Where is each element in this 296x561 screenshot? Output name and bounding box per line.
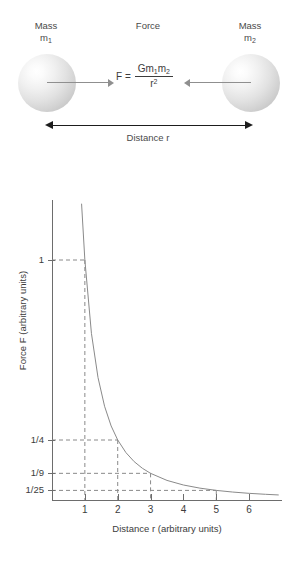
inverse-square-chart: Force F (arbitrary units) Distance r (ar… <box>0 165 296 561</box>
mass1-sphere <box>18 54 76 112</box>
gravitation-formula: F = Gm1m2 r2 <box>116 63 173 89</box>
x-axis-tick <box>118 494 119 501</box>
x-axis-tick-label: 5 <box>206 504 226 515</box>
x-axis-tick-label: 4 <box>173 504 193 515</box>
y-axis-tick <box>48 473 55 474</box>
x-axis-tick-label: 2 <box>108 504 128 515</box>
data-curve <box>82 204 279 495</box>
formula-den-exponent: 2 <box>154 78 158 85</box>
x-axis-tick <box>151 494 152 501</box>
y-axis-title: Force F (arbitrary units) <box>17 246 28 396</box>
mass2-symbol: m <box>244 32 252 43</box>
force-label: Force <box>116 20 180 32</box>
gravitation-diagram: Mass m1 Force Mass m2 F = Gm1m2 r2 Dista… <box>0 0 296 165</box>
x-axis-tick <box>216 494 217 501</box>
x-axis-tick-label: 3 <box>141 504 161 515</box>
distance-arrow-shaft <box>52 125 246 126</box>
x-axis-title: Distance r (arbitrary units) <box>52 523 282 534</box>
formula-denominator: r2 <box>147 77 160 89</box>
force-arrow-right-head-icon <box>108 79 114 87</box>
y-axis-tick-label: 1/9 <box>0 467 44 478</box>
x-axis-tick-label: 1 <box>75 504 95 515</box>
x-axis-tick-label: 6 <box>239 504 259 515</box>
formula-fraction: Gm1m2 r2 <box>135 63 173 89</box>
x-axis-tick <box>183 494 184 501</box>
chart-svg <box>0 165 296 561</box>
y-axis-tick <box>48 490 55 491</box>
mass1-subscript: 1 <box>48 37 52 44</box>
mass1-label: Mass m1 <box>14 20 78 47</box>
y-axis-tick-label: 1 <box>0 254 44 265</box>
formula-num-G-m: Gm <box>138 63 154 74</box>
mass1-symbol: m <box>40 32 48 43</box>
distance-arrow-right-head-icon <box>245 121 253 129</box>
force-arrow-right-shaft <box>47 82 110 83</box>
y-axis-tick <box>48 440 55 441</box>
formula-num-m: m <box>158 63 166 74</box>
y-axis-tick <box>48 260 55 261</box>
mass1-name: Mass <box>35 20 58 31</box>
y-axis-tick-label: 1/25 <box>0 484 44 495</box>
mass2-name: Mass <box>239 20 262 31</box>
x-axis-tick <box>249 494 250 501</box>
x-axis-tick <box>85 494 86 501</box>
formula-num-sub2: 2 <box>166 68 170 75</box>
formula-lhs: F = <box>116 71 131 82</box>
formula-numerator: Gm1m2 <box>135 63 173 76</box>
y-axis-tick-label: 1/4 <box>0 434 44 445</box>
distance-label: Distance r <box>98 132 198 144</box>
mass2-sphere <box>222 54 280 112</box>
mass2-label: Mass m2 <box>218 20 282 47</box>
mass2-subscript: 2 <box>252 37 256 44</box>
force-arrow-left-head-icon <box>184 79 190 87</box>
force-arrow-left-shaft <box>190 82 251 83</box>
